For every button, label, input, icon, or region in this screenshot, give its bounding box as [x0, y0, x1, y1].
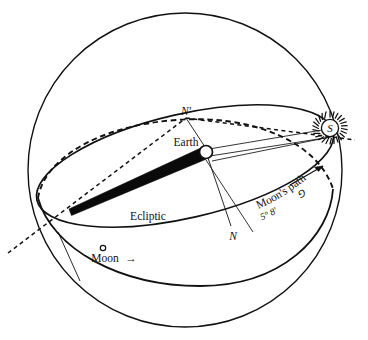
earth-label: Earth: [174, 136, 199, 148]
celestial-sphere-outline: [28, 13, 342, 327]
ecliptic-label: Ecliptic: [130, 210, 166, 223]
celestial-sphere-diagram: S Earth Ecliptic N' N Moon → Moon's path…: [0, 0, 368, 340]
moon-label: Moon: [91, 252, 119, 264]
moon-body: [100, 245, 105, 250]
diagram-canvas: S Earth Ecliptic N' N Moon → Moon's path…: [0, 0, 368, 340]
node-ascending-label: N: [228, 230, 238, 242]
moon-direction-arrow-label: →: [125, 252, 137, 264]
sun-label: S: [327, 122, 333, 134]
node-descending-label: N': [180, 105, 192, 117]
earth-body: [200, 146, 213, 159]
